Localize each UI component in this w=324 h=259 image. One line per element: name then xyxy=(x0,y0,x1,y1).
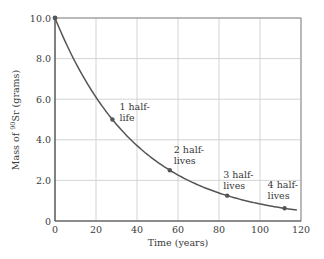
half-life-markers xyxy=(53,16,287,211)
y-axis-label: Mass of 90Sr (grams) xyxy=(9,70,21,170)
x-tick-label: 40 xyxy=(131,224,143,235)
x-tick-label: 100 xyxy=(251,224,269,235)
y-tick-labels: 02.04.06.08.010.0 xyxy=(30,13,51,227)
x-tick-label: 120 xyxy=(292,224,310,235)
gridlines xyxy=(55,18,301,221)
y-tick-label: 4.0 xyxy=(36,134,51,145)
data-point-marker xyxy=(53,16,58,21)
x-tick-label: 20 xyxy=(90,224,102,235)
half-life-annotations: 1 half-life2 half-lives3 half-lives4 hal… xyxy=(119,101,297,202)
data-point-marker xyxy=(168,168,172,172)
half-life-label-line1: 2 half- xyxy=(174,144,204,155)
y-axis-label-prefix: Mass of xyxy=(10,130,21,170)
y-tick-label: 2.0 xyxy=(36,175,51,186)
decay-curve-line xyxy=(55,18,297,210)
x-tick-label: 0 xyxy=(52,224,58,235)
y-tick-label: 0 xyxy=(45,216,51,227)
x-tick-label: 80 xyxy=(213,224,225,235)
data-point-marker xyxy=(110,117,114,121)
chart-canvas: 1 half-life2 half-lives3 half-lives4 hal… xyxy=(0,0,324,259)
half-life-label-line1: 1 half- xyxy=(119,101,149,112)
x-tick-label: 60 xyxy=(172,224,184,235)
y-tick-label: 10.0 xyxy=(30,13,51,24)
y-axis-label-element: Sr xyxy=(10,110,21,122)
y-axis-label-suffix: (grams) xyxy=(10,70,21,111)
half-life-label-line1: 4 half- xyxy=(268,179,298,190)
half-life-label-line2: lives xyxy=(174,155,196,166)
y-axis-label-superscript: 90 xyxy=(9,121,17,129)
half-life-label-line1: 3 half- xyxy=(223,169,253,180)
half-life-label-line2: lives xyxy=(268,190,290,201)
y-tick-label: 8.0 xyxy=(36,53,51,64)
x-axis-label: Time (years) xyxy=(148,237,209,248)
decay-chart: 1 half-life2 half-lives3 half-lives4 hal… xyxy=(0,0,324,259)
data-point-marker xyxy=(225,193,229,197)
y-tick-label: 6.0 xyxy=(36,94,51,105)
decay-curve xyxy=(55,18,297,210)
half-life-label-line2: life xyxy=(119,112,135,123)
half-life-label-line2: lives xyxy=(223,180,245,191)
x-tick-labels: 020406080100120 xyxy=(52,224,310,235)
data-point-marker xyxy=(282,206,286,210)
